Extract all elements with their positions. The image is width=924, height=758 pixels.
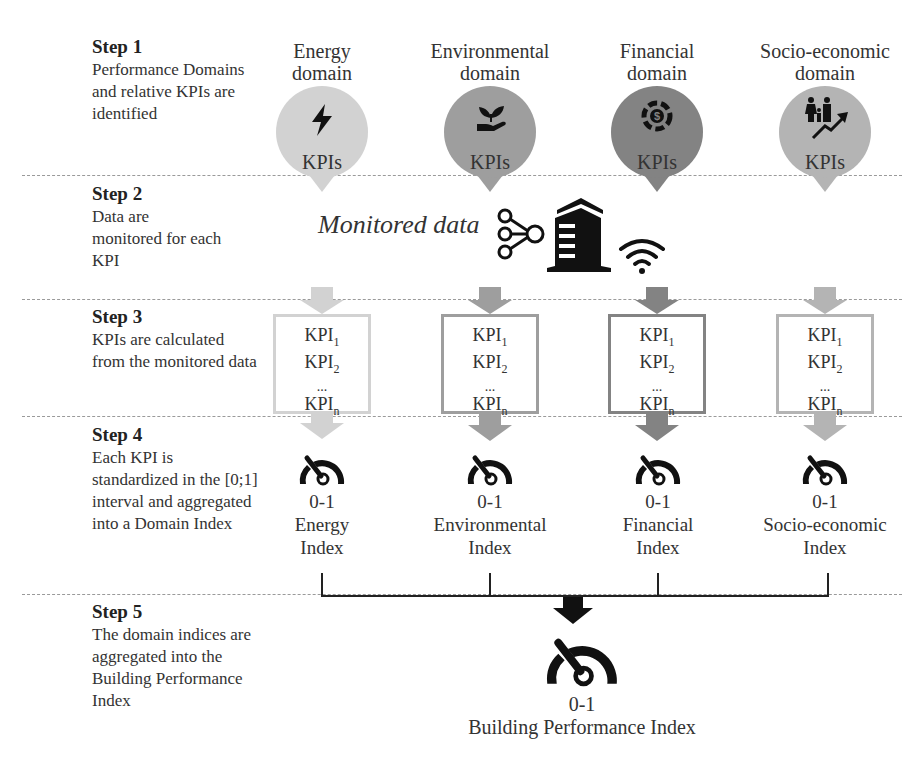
socio-economic-gauge-icon [800,448,850,486]
energy-kpis-label: KPIs [276,151,368,174]
step-3: Step 3 KPIs are calculated from the moni… [92,305,257,373]
bracket-tick-environmental [489,573,491,597]
bracket-tick-socio-economic [827,573,829,597]
svg-text:$: $ [654,110,660,122]
environmental-index-value: 0-1 [400,490,580,513]
bpi-label: Building Performance Index [432,716,732,739]
energy-gauge-icon [297,448,347,486]
step-5-title: Step 5 [92,600,267,624]
domain-title-socio-economic: Socio-economic domain [735,40,915,84]
environmental-step3-arrowhead [468,300,512,314]
socio-economic-index-value: 0-1 [735,490,915,513]
energy-index-value: 0-1 [232,490,412,513]
step-2: Step 2 Data are monitored for each KPI [92,182,222,272]
environmental-kpi-box: KPI1 KPI2 ... KPIn [441,314,539,414]
building-performance-index: 0-1 Building Performance Index [432,693,732,739]
family-growth-icon [801,96,851,140]
step-2-text: Data are monitored for each KPI [92,207,221,270]
financial-step4-arrowhead [635,425,679,441]
bpi-value: 0-1 [432,693,732,716]
energy-step3-arrow [311,287,333,301]
dollar-coin-icon: $ [641,100,673,132]
separator-2 [22,299,902,300]
financial-step3-arrow [646,287,668,301]
bracket-tick-energy [321,573,323,597]
step-5: Step 5 The domain indices are aggregated… [92,600,267,712]
energy-kpi-box: KPI1 KPI2 ... KPIn [273,314,371,414]
step-4-title: Step 4 [92,423,262,447]
socio-economic-step3-arrowhead [803,300,847,314]
socio-economic-pin: KPIs [779,86,871,178]
lightning-icon [310,104,334,136]
building-icon [545,196,615,272]
environmental-gauge-icon [465,448,515,486]
domain-title-energy: Energy domain [232,40,412,84]
financial-kpis-label: KPIs [611,151,703,174]
network-nodes-icon [495,207,547,261]
monitored-data-label: Monitored data [318,210,480,240]
environmental-pin: KPIs [444,86,536,178]
energy-step3-arrowhead [300,300,344,314]
financial-kpi-box: KPI1 KPI2 ... KPIn [608,314,706,414]
bpi-arrowhead [553,608,593,624]
socio-economic-kpis-label: KPIs [779,151,871,174]
environmental-kpis-label: KPIs [444,151,536,174]
bracket-tick-financial [657,573,659,597]
socio-economic-index: 0-1 Socio-economic Index [735,490,915,559]
step-5-text: The domain indices are aggregated into t… [92,625,251,710]
bpi-gauge-icon [540,627,624,687]
socio-economic-step3-arrow [814,287,836,301]
domain-title-financial: Financial domain [567,40,747,84]
financial-gauge-icon [633,448,683,486]
financial-pin: $ KPIs [611,86,703,178]
plant-in-hand-icon [474,100,508,134]
step-3-title: Step 3 [92,305,257,329]
socio-economic-step4-arrowhead [803,425,847,441]
financial-index: 0-1 Financial Index [568,490,748,559]
energy-step4-arrowhead [300,423,344,439]
energy-pin: KPIs [276,86,368,178]
financial-index-value: 0-1 [568,490,748,513]
step-3-text: KPIs are calculated from the monitored d… [92,330,257,371]
step-1-text: Performance Domains and relative KPIs ar… [92,60,244,123]
environmental-step3-arrow [479,287,501,301]
financial-step3-arrowhead [635,300,679,314]
energy-index: 0-1 Energy Index [232,490,412,559]
environmental-step4-arrowhead [468,425,512,441]
step-2-title: Step 2 [92,182,222,206]
domain-title-environmental: Environmental domain [400,40,580,84]
environmental-index: 0-1 Environmental Index [400,490,580,559]
socio-economic-kpi-box: KPI1 KPI2 ... KPIn [776,314,874,414]
wifi-icon [617,235,667,275]
